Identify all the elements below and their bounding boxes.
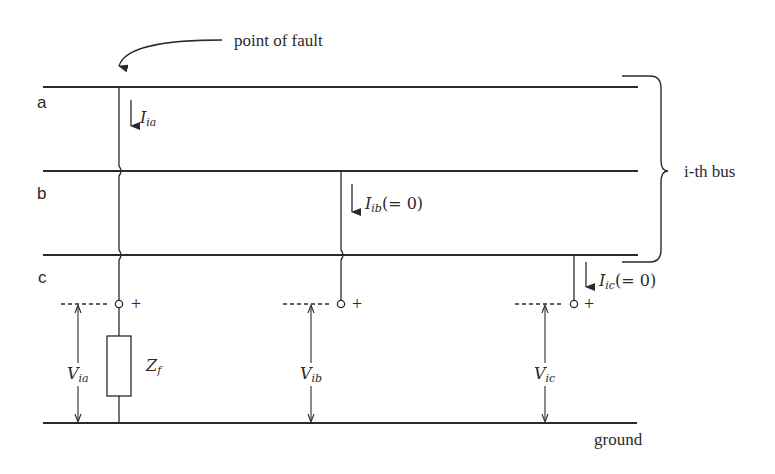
fault-diagram: point of fault i-th bus ground a b c Iia… [0,0,775,474]
bus-group-brace [622,76,668,262]
voltage-label-b: Vib [300,366,322,384]
ground-label: ground [594,431,642,448]
polarity-c: + [584,295,594,313]
impedance-label: Zf [146,358,161,376]
current-label-b: Iib(= 0) [365,196,423,214]
polarity-b: + [352,295,362,313]
current-label-a: Iia [140,110,156,128]
current-label-c: Iic(= 0) [599,273,656,291]
terminal-a [115,300,122,307]
bus-group-label: i-th bus [684,163,735,180]
phase-b-tap-wire [341,171,343,300]
point-of-fault-arrow [119,40,222,66]
terminal-c [570,300,577,307]
polarity-a: + [131,295,141,313]
phase-a-fault-wire [119,87,121,300]
impedance-zf-box [107,336,131,396]
voltage-label-a: Via [67,366,89,384]
voltage-label-c: Vic [534,366,555,384]
terminal-b [337,300,344,307]
phase-a-label: a [37,94,46,111]
phase-b-label: b [37,185,46,202]
phase-c-label: c [38,269,47,286]
diagram-wires [0,0,775,474]
point-of-fault-label: point of fault [234,32,323,49]
